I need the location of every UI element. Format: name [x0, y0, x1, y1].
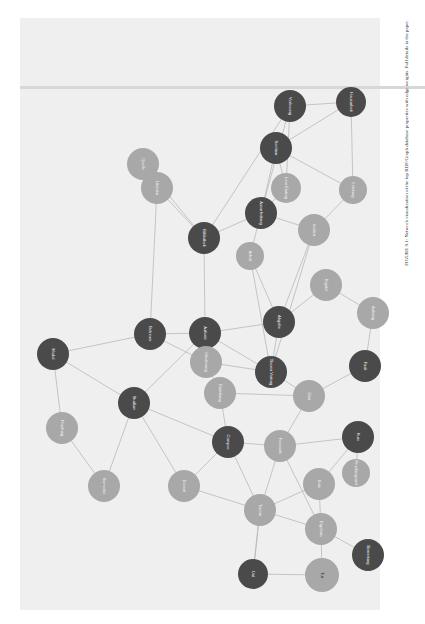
node-label: Vorlesung: [288, 97, 293, 115]
node-label: Ausarbeitung: [259, 201, 264, 225]
graph-node: Bewertung: [352, 539, 384, 571]
graph-node: Lern Eintrag: [271, 173, 301, 203]
graph-node: Tut: [305, 558, 339, 592]
node-label: Einleitung: [218, 384, 223, 402]
graph-node: Kurs: [342, 421, 374, 453]
node-label: Pruefung: [60, 420, 65, 436]
node-label: Quelle: [141, 158, 146, 170]
node-label: Bibliothek: [202, 229, 207, 246]
node-label: Modul: [51, 349, 56, 360]
graph-node: Zitat: [293, 380, 325, 412]
caption-text: FIGURE 9.1: Network visualization of the…: [404, 20, 410, 266]
graph-node: Hausarbeit: [336, 87, 366, 117]
node-label: Termin: [258, 504, 263, 516]
node-label: Lern Eintrag: [284, 177, 289, 199]
graph-node: Gliederung: [190, 346, 222, 378]
graph-node: Ergebnis: [305, 513, 337, 545]
node-label: Kurs: [356, 433, 361, 441]
graph-node: Pruefungsamt: [342, 459, 370, 487]
graph-node: Bibliothek: [188, 222, 220, 254]
graph-node: Dozent: [168, 470, 200, 502]
node-label: Leistung: [351, 182, 356, 197]
graph-node: Anhang: [357, 297, 389, 329]
graph-node: Campus: [212, 426, 244, 458]
graph-node: Leistung: [339, 176, 367, 204]
node-label: Ergebnis: [319, 521, 324, 537]
node-label: Abgabe: [277, 315, 282, 330]
network-graph: HausarbeitLeistungLern EintragInstitutSe…: [0, 0, 425, 624]
node-label: Uni: [251, 571, 256, 577]
node-label: Bewertung: [366, 545, 371, 564]
node-label: Semester: [102, 477, 107, 495]
graph-node: Pruefung: [46, 412, 78, 444]
graph-node: Quelle: [127, 148, 159, 180]
node-label: Thema Vortrag: [269, 359, 274, 385]
node-label: Seminar: [274, 141, 279, 157]
graph-node: Studium: [118, 387, 150, 419]
node-label: Aufsatz: [203, 326, 208, 339]
graph-node: Institut: [298, 214, 330, 246]
graph-node: Kapitel: [310, 269, 342, 301]
node-label: Betreuer: [148, 326, 153, 342]
graph-node: Fazit: [349, 350, 381, 382]
node-label: Studium: [132, 396, 137, 411]
graph-node: Modul: [37, 338, 69, 370]
node-layer: HausarbeitLeistungLern EintragInstitutSe…: [37, 87, 389, 592]
node-label: Fazit: [363, 362, 368, 372]
node-label: Anhang: [371, 306, 376, 320]
node-label: Dozent: [182, 480, 187, 494]
graph-node: Semester: [88, 470, 120, 502]
graph-node: Betreuer: [134, 318, 166, 350]
graph-node: Ausarbeitung: [245, 197, 277, 229]
node-label: Fussnote: [278, 438, 283, 455]
node-label: Zitat: [307, 392, 312, 401]
graph-node: Thema Vortrag: [255, 356, 287, 388]
graph-node: Note: [303, 468, 335, 500]
node-label: Literatur: [155, 181, 160, 196]
node-label: Campus: [226, 435, 231, 450]
node-label: Gliederung: [204, 352, 209, 372]
node-label: Institut: [312, 224, 317, 237]
graph-edge: [271, 230, 314, 372]
graph-node: Uni: [238, 559, 268, 589]
node-label: Pruefungsamt: [354, 461, 359, 487]
node-label: Hausarbeit: [349, 92, 354, 112]
node-label: Kapitel: [324, 279, 329, 291]
graph-node: Abgabe: [263, 306, 295, 338]
node-label: Note: [317, 480, 322, 489]
graph-node: Fussnote: [264, 430, 296, 462]
graph-node: Aufsatz: [189, 317, 221, 349]
node-label: Arbeit: [248, 251, 253, 262]
graph-edge: [150, 188, 157, 334]
graph-node: Vorlesung: [274, 90, 306, 122]
graph-node: Termin: [244, 494, 276, 526]
node-label: Tut: [320, 572, 325, 579]
graph-node: Einleitung: [204, 377, 236, 409]
graph-node: Seminar: [260, 132, 292, 164]
figure-caption: FIGURE 9.1: Network visualization of the…: [404, 20, 416, 620]
graph-node: Arbeit: [236, 242, 264, 270]
